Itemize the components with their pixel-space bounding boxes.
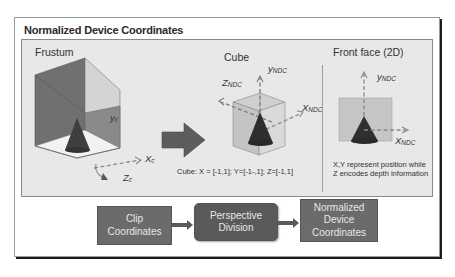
flow-arrow-icon	[278, 217, 300, 229]
front-face-y-axis-label: yNDC	[377, 71, 396, 82]
frustum-illustration	[22, 40, 162, 190]
cube-x-axis-label: XNDC	[302, 102, 322, 113]
cube-y-axis-label: yNDC	[268, 63, 287, 74]
flow-step-normalized-device-coordinates: Normalized Device Coordinates	[300, 199, 378, 242]
cube-illustration	[197, 60, 327, 170]
diagram-frame: Normalized Device Coordinates Frustum	[14, 17, 440, 257]
flow-step-perspective-division: Perspective Division	[194, 203, 278, 241]
cube-range-caption: Cube: X = [-1,1]; Y=[-1-,1]; Z=[-1,1]	[177, 167, 293, 176]
flow-step-text: Division	[210, 222, 262, 235]
frustum-y-axis-label: yc	[110, 112, 118, 123]
cube-z-axis-label: ZNDC	[222, 77, 242, 88]
flow-step-text: Normalized	[312, 202, 366, 215]
frustum-z-axis-label: Zc	[123, 172, 132, 183]
flow-step-text: Device	[312, 214, 366, 227]
illustration-panel: Frustum yc Xc Zc	[21, 39, 433, 197]
front-face-caption: X,Y represent position while Z encodes d…	[333, 160, 425, 178]
diagram-title: Normalized Device Coordinates	[24, 24, 183, 36]
flow-step-text: Coordinates	[312, 227, 366, 240]
flow-step-clip-coordinates: Clip Coordinates	[97, 206, 172, 245]
flow-arrow-icon	[172, 219, 194, 231]
front-face-x-axis-label: XNDC	[395, 135, 415, 146]
front-face-label: Front face (2D)	[333, 46, 404, 58]
frustum-x-axis-label: Xc	[145, 153, 155, 164]
caption-line: Z encodes depth information	[333, 169, 425, 178]
flow-step-text: Clip	[108, 213, 162, 226]
caption-line: X,Y represent position while	[333, 160, 425, 169]
flow-step-text: Perspective	[210, 210, 262, 223]
flow-step-text: Coordinates	[108, 226, 162, 239]
